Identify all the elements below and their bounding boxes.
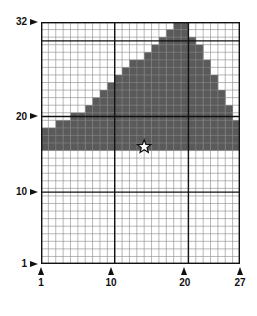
arrow-up-icon	[38, 267, 44, 275]
arrow-right-icon	[30, 113, 38, 119]
shaded-column	[144, 52, 152, 150]
pattern-grid	[41, 22, 240, 264]
shaded-column	[122, 67, 130, 150]
x-axis-label: 20	[173, 277, 197, 288]
shaded-column	[188, 37, 196, 150]
arrow-right-icon	[30, 261, 38, 267]
shaded-column	[93, 98, 101, 151]
shaded-column	[48, 128, 56, 151]
y-axis-label: 1	[21, 258, 27, 269]
arrow-right-icon	[30, 19, 38, 25]
x-axis-label: 1	[29, 277, 53, 288]
shaded-column	[70, 113, 78, 151]
arrow-right-icon	[30, 189, 38, 195]
y-axis-label: 10	[16, 186, 27, 197]
shaded-column	[78, 113, 86, 151]
x-axis-label: 10	[99, 277, 123, 288]
y-axis-label: 32	[16, 16, 27, 27]
arrow-up-icon	[108, 267, 114, 275]
arrow-up-icon	[237, 267, 243, 275]
x-axis-label: 27	[228, 277, 252, 288]
arrow-up-icon	[181, 267, 187, 275]
y-axis-label: 20	[16, 111, 27, 122]
shaded-column	[159, 37, 167, 150]
